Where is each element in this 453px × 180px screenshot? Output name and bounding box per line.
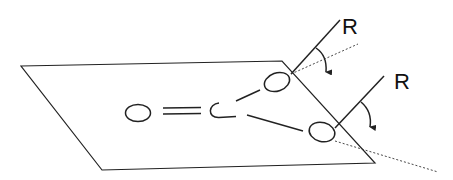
r-label-upper: R	[342, 14, 358, 39]
double-bond-line-1	[163, 108, 201, 109]
bond-upper	[236, 90, 260, 101]
r-bond-upper	[291, 20, 340, 74]
double-bond-line-2	[163, 114, 201, 115]
r-bond-lower	[335, 76, 384, 128]
r-label-lower: R	[394, 69, 410, 94]
substituent-lower-atom	[307, 119, 337, 144]
diagram-canvas: R R	[0, 0, 453, 180]
rotation-arrow-lower	[361, 102, 370, 127]
projection-dashed-lower	[335, 141, 438, 172]
substituent-upper-atom	[262, 69, 293, 95]
oxygen-atom	[126, 105, 151, 122]
bond-lower	[247, 115, 303, 131]
carbon-atom	[210, 103, 236, 118]
rotation-arrow-upper	[316, 48, 326, 72]
molecular-plane	[21, 61, 375, 170]
